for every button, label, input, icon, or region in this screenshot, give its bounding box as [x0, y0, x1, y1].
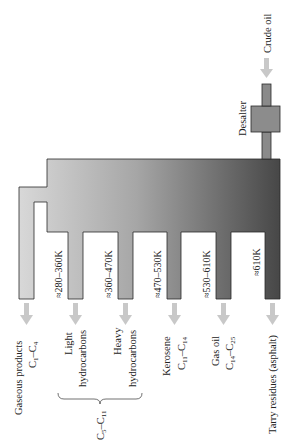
arrow-down-icon: [69, 303, 82, 325]
fraction-name-line1: Light: [63, 332, 74, 355]
fraction-name-line2: hydrocarbons: [77, 330, 88, 387]
fraction-label-light: Light hydrocarbons: [63, 330, 88, 387]
desalter-assembly: [251, 84, 280, 159]
temp-label-light: ≈280–360K: [53, 250, 64, 298]
fraction-label-heavy: Heavy hydrocarbons: [112, 327, 138, 387]
fraction-name: Kerosene: [161, 336, 172, 376]
output-arrows: [20, 303, 279, 325]
desalter-tank: [251, 106, 280, 132]
group-formula-c5-c11: C5–C11: [95, 410, 108, 440]
fraction-formula: C14–C25: [224, 336, 237, 370]
crude-oil-arrow-icon: [260, 58, 273, 78]
temp-label-gas-oil: ≈530–610K: [201, 250, 212, 298]
crude-oil-label: Crude oil: [262, 14, 273, 53]
fraction-name: Gas oil: [210, 336, 221, 366]
temp-label-tarry: ≈610K: [251, 248, 262, 276]
temp-label-heavy: ≈360–470K: [103, 250, 114, 298]
arrow-down-icon: [119, 303, 132, 325]
feed-pipe-upper: [262, 84, 271, 106]
fraction-formula: C1–C4: [27, 341, 40, 368]
temp-label-kerosene: ≈470–530K: [152, 250, 163, 298]
arrow-down-icon: [266, 303, 279, 325]
fraction-formula: C11–C14: [176, 336, 189, 370]
fraction-name-line2: hydrocarbons: [127, 330, 138, 387]
arrow-down-icon: [217, 303, 230, 325]
feed-pipe-lower: [262, 132, 271, 159]
distillation-diagram: ≈280–360K ≈360–470K ≈470–530K ≈530–610K …: [0, 0, 290, 447]
fraction-name-line1: Heavy: [112, 327, 123, 355]
group-brace: [58, 393, 142, 404]
fraction-label-gaseous: Gaseous products C1–C4: [13, 341, 40, 415]
fraction-name: Gaseous products: [13, 341, 24, 415]
arrow-down-icon: [168, 303, 181, 325]
fraction-label-gas-oil: Gas oil C14–C25: [210, 336, 237, 370]
fraction-label-tarry: Tarry residues (asphalt): [267, 335, 279, 434]
arrow-down-icon: [20, 303, 33, 325]
desalter-label: Desalter: [237, 101, 248, 136]
fraction-label-kerosene: Kerosene C11–C14: [161, 336, 189, 376]
